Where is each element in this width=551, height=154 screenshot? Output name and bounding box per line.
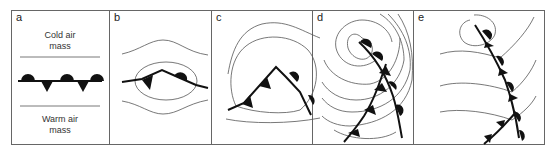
warm-air-line1: Warm air xyxy=(30,114,90,125)
cold-front-triangle-icon xyxy=(242,77,271,108)
warm-air-line2: mass xyxy=(30,125,90,136)
panel-a xyxy=(18,57,104,106)
isobar-line xyxy=(440,60,536,92)
isobar-line xyxy=(334,130,396,139)
warm-front-semicircle-icon xyxy=(289,71,315,105)
panel-b xyxy=(122,40,208,114)
isobar-line xyxy=(322,14,404,100)
isobar-line xyxy=(440,96,536,120)
warm-front-semicircle-icon xyxy=(174,72,187,81)
warm-front-semicircle-icon xyxy=(21,74,104,81)
isobar-line xyxy=(226,118,320,123)
isobar-line xyxy=(440,17,534,58)
panel-label-d: d xyxy=(317,11,323,23)
panel-label-b: b xyxy=(114,11,120,23)
cold-front-line xyxy=(344,64,386,142)
panel-d-fronts xyxy=(344,39,404,142)
panel-label-e: e xyxy=(418,11,424,23)
panel-label-a: a xyxy=(16,11,22,23)
panel-label-c: c xyxy=(216,11,222,23)
isobar-line xyxy=(122,100,208,114)
cold-air-mass-label: Cold air mass xyxy=(30,30,90,52)
cold-air-line1: Cold air xyxy=(30,30,90,41)
warm-air-mass-label: Warm air mass xyxy=(30,114,90,136)
isobar-line xyxy=(122,40,208,55)
panel-c xyxy=(226,23,320,123)
cold-air-line2: mass xyxy=(30,41,90,52)
occluded-front-line xyxy=(475,25,519,138)
isobar-line xyxy=(322,14,410,112)
cold-front-triangle-icon xyxy=(41,81,89,92)
